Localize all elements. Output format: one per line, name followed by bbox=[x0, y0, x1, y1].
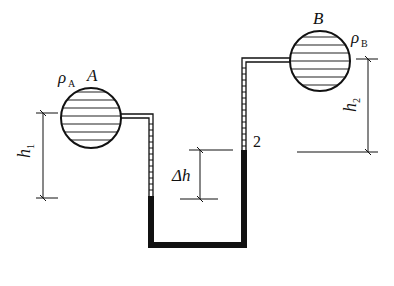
rho-a-label: ρ bbox=[57, 68, 66, 87]
rho-b-label: ρ bbox=[350, 28, 359, 47]
h2-dimension bbox=[297, 56, 378, 155]
h1-subscript: 1 bbox=[25, 144, 36, 149]
point-2-label: 2 bbox=[253, 133, 261, 150]
h2-label: h bbox=[340, 103, 360, 112]
tube-right bbox=[242, 58, 290, 150]
h1-label: h bbox=[14, 149, 34, 158]
h1-dimension bbox=[36, 110, 58, 201]
tank-b-label: B bbox=[313, 9, 324, 28]
delta-h-label: Δh bbox=[171, 166, 190, 185]
h2-subscript: 2 bbox=[351, 98, 362, 103]
tank-a-label: A bbox=[86, 66, 98, 85]
rho-a-subscript: A bbox=[68, 78, 76, 89]
diagram-svg: ρ A A B ρ B h 1 h 2 Δh 2 bbox=[0, 0, 394, 286]
rho-b-subscript: B bbox=[361, 38, 368, 49]
tank-a bbox=[55, 88, 130, 148]
manometer-diagram: ρ A A B ρ B h 1 h 2 Δh 2 bbox=[0, 0, 394, 286]
tube-left bbox=[121, 114, 153, 196]
tank-b bbox=[285, 31, 360, 91]
